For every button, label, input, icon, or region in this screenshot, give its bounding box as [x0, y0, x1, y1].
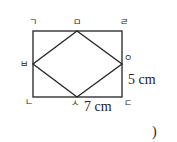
vertex-label-bottom-right: ㄷ: [124, 99, 132, 108]
vertex-label-bottom-mid: ㅅ: [71, 99, 79, 108]
vertex-label-left-mid: ㅂ: [20, 60, 28, 69]
width-measurement: 7 cm: [84, 100, 112, 114]
rectangle-rhombus-figure: [0, 0, 177, 142]
vertex-label-top-right: ㄹ: [120, 18, 128, 27]
vertex-label-top-left: ㄱ: [29, 18, 37, 27]
height-measurement: 5 cm: [128, 73, 156, 87]
vertex-label-top-mid: ㅁ: [73, 18, 81, 27]
vertex-label-right-mid: ㅇ: [124, 54, 132, 63]
rectangle: [33, 31, 122, 97]
answer-paren: ): [152, 124, 157, 140]
vertex-label-bottom-left: ㄴ: [25, 98, 33, 107]
rhombus: [33, 31, 122, 97]
